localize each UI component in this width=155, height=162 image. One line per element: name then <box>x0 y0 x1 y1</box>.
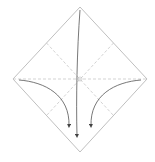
diagram-svg <box>0 0 155 162</box>
paper-outline <box>13 7 147 152</box>
origami-diagram <box>0 0 155 162</box>
